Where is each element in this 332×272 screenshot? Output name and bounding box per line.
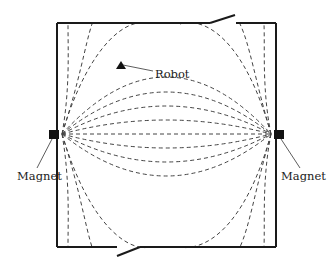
right-magnet [274, 130, 284, 139]
right-magnet-label: Magnet [281, 169, 326, 183]
robot-label: Robot [155, 67, 190, 81]
left-magnet [49, 130, 59, 139]
magnetic-field-diagram: Magnet Magnet Robot [0, 0, 332, 272]
magnetic-field-lines [62, 23, 271, 248]
robot-pointer [123, 65, 153, 71]
right-magnet-pointer [281, 139, 300, 168]
left-magnet-label: Magnet [17, 169, 62, 183]
left-magnet-pointer [37, 139, 52, 168]
room-walls [57, 23, 276, 247]
top-door [210, 15, 235, 23]
bottom-door [117, 247, 140, 256]
